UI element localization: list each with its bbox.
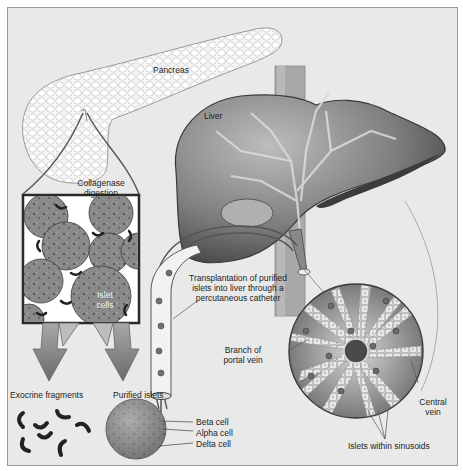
label-exocrine-fragments: Exocrine fragments bbox=[10, 390, 83, 400]
label-alpha-cell: Alpha cell bbox=[196, 428, 233, 438]
label-portal-vein: Branch of portal vein bbox=[213, 345, 273, 365]
label-beta-cell: Beta cell bbox=[196, 417, 229, 427]
illustration-frame: Pancreas Liver Collagenase digestion Isl… bbox=[7, 7, 458, 466]
label-pancreas: Pancreas bbox=[153, 65, 189, 75]
label-transplantation: Transplantation of purified islets into … bbox=[178, 273, 298, 303]
label-islet-cells: Islet cells bbox=[90, 290, 120, 310]
liver-lobule-detail bbox=[289, 284, 423, 419]
islet-digestion-box bbox=[14, 191, 157, 334]
purified-islet bbox=[106, 399, 193, 459]
label-liver: Liver bbox=[204, 111, 222, 121]
label-islets-within-sinusoids: Islets within sinusoids bbox=[348, 441, 430, 451]
exocrine-fragments-icons bbox=[19, 411, 89, 455]
label-collagenase-digestion: Collagenase digestion bbox=[71, 178, 131, 198]
arrows bbox=[33, 323, 139, 381]
label-purified-islets: Purified islets bbox=[113, 390, 164, 400]
label-delta-cell: Delta cell bbox=[196, 439, 231, 449]
label-central-vein: Central vein bbox=[413, 397, 453, 417]
